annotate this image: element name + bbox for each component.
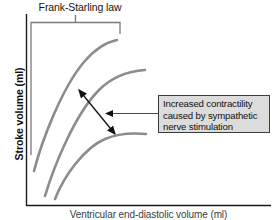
callout-line-3: nerve stimulation xyxy=(163,121,269,133)
x-axis-label: Ventricular end-diastolic volume (ml) xyxy=(26,209,271,220)
y-axis-label: Stroke volume (ml) xyxy=(13,39,25,189)
curve-decreased-contractility xyxy=(55,134,146,199)
frank-starling-figure: Frank-Starling law Stroke volume (ml) Ve… xyxy=(0,0,275,220)
callout-line-2: caused by sympathetic xyxy=(163,110,269,122)
contractility-callout-box: Increased contractility caused by sympat… xyxy=(158,95,270,133)
bracket-label: Frank-Starling law xyxy=(30,1,130,14)
curve-increased-contractility xyxy=(34,40,117,171)
callout-line-1: Increased contractility xyxy=(163,98,269,110)
contractility-shift-arrow xyxy=(79,90,115,134)
